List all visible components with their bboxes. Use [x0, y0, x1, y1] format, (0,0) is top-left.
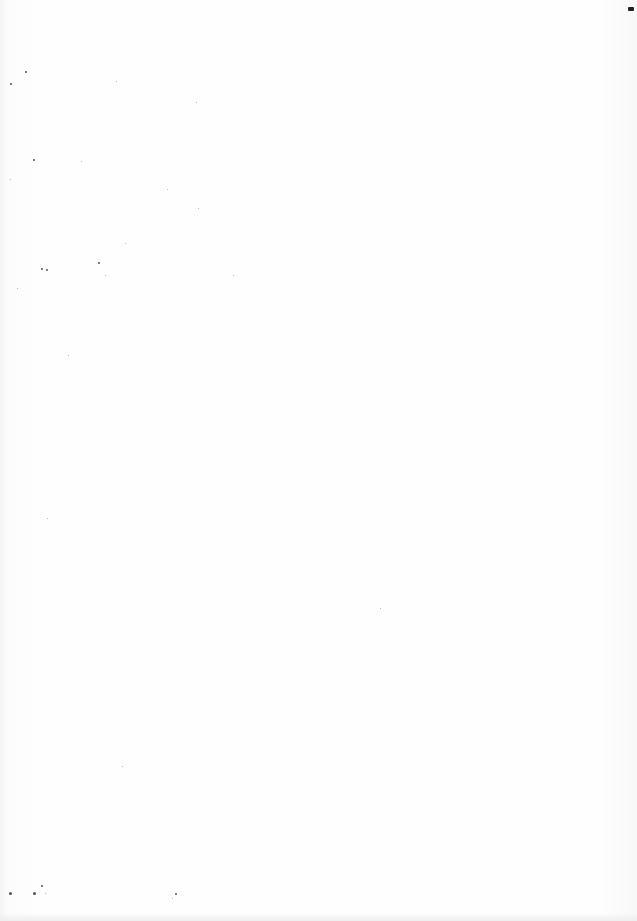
speck	[10, 83, 12, 85]
speck	[9, 892, 12, 895]
speck	[81, 161, 82, 162]
speck	[98, 262, 100, 264]
speck	[116, 81, 117, 82]
speck	[46, 269, 48, 271]
speck	[45, 893, 46, 894]
corner-mark	[628, 7, 634, 11]
speck	[105, 275, 106, 276]
blank-scanned-page	[0, 0, 637, 921]
speck	[33, 892, 36, 895]
speck	[380, 608, 381, 609]
speck	[167, 189, 168, 190]
page-edge-shadow	[0, 913, 637, 921]
speck	[41, 885, 43, 887]
speck	[41, 268, 43, 270]
speck	[122, 766, 123, 767]
speck	[10, 179, 11, 180]
speck	[172, 898, 173, 899]
speck	[33, 159, 35, 161]
speck	[47, 518, 48, 519]
speck	[17, 288, 18, 289]
speck	[196, 102, 197, 103]
speck	[25, 71, 27, 73]
speck	[233, 275, 234, 276]
speck	[198, 208, 199, 209]
speck	[175, 893, 177, 895]
speck	[125, 243, 126, 244]
speck	[68, 355, 69, 356]
